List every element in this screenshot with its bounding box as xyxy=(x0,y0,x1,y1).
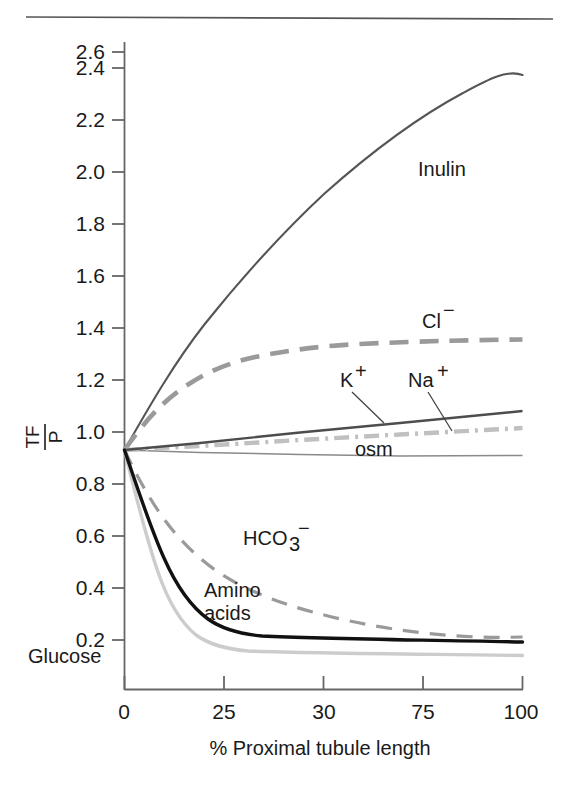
curve-label-sodium-charge: + xyxy=(437,360,449,382)
y-tick-label-1-4: 1.4 xyxy=(76,316,106,339)
curve-label-chloride-charge: − xyxy=(443,299,455,321)
curve-label-chloride-text: Cl xyxy=(422,310,441,332)
curve-glucose xyxy=(125,450,523,656)
figure-container: 0.2 0.4 0.6 0.8 1.0 1.2 1.4 1.6 1.8 2.0 … xyxy=(0,0,567,788)
curve-label-bicarbonate-text: HCO xyxy=(243,527,287,549)
x-axis-ticks xyxy=(125,676,523,690)
y-tick-label-1-8: 1.8 xyxy=(76,212,105,235)
y-tick-label-1-6: 1.6 xyxy=(76,264,105,287)
y-tick-label-2-2: 2.2 xyxy=(76,108,105,131)
curve-label-potassium-text: K xyxy=(340,369,354,391)
x-tick-label-30: 30 xyxy=(312,700,335,723)
y-tick-label-0-6: 0.6 xyxy=(76,524,105,547)
x-tick-label-25: 25 xyxy=(212,700,235,723)
curve-label-glucose: Glucose xyxy=(28,645,101,667)
y-axis-ticks xyxy=(112,52,125,640)
x-tick-label-0: 0 xyxy=(118,700,130,723)
y-axis-title-denominator: P xyxy=(45,431,66,444)
curve-label-bicarbonate-charge: − xyxy=(298,517,310,539)
leader-line-sodium xyxy=(428,392,452,431)
curve-chloride xyxy=(125,340,523,451)
curve-label-bicarbonate: HCO 3 − xyxy=(243,517,310,555)
curve-amino-acids xyxy=(125,450,523,642)
y-tick-label-0-4: 0.4 xyxy=(76,576,106,599)
curve-label-osm: osm xyxy=(355,438,393,460)
y-tick-label-1-2: 1.2 xyxy=(76,368,105,391)
y-axis-title-numerator: TF xyxy=(22,425,43,448)
curve-label-sodium: Na + xyxy=(408,360,449,391)
curve-label-amino-acids: Amino acids xyxy=(204,579,261,624)
curve-label-potassium: K + xyxy=(340,360,367,391)
y-tick-label-2-0: 2.0 xyxy=(76,160,105,183)
curve-label-sodium-text: Na xyxy=(408,369,434,391)
curve-label-amino-acids-line2: acids xyxy=(204,602,251,624)
curve-label-potassium-charge: + xyxy=(355,360,367,382)
x-tick-label-100: 100 xyxy=(503,700,538,723)
tfp-proximal-tubule-chart: 0.2 0.4 0.6 0.8 1.0 1.2 1.4 1.6 1.8 2.0 … xyxy=(0,0,567,788)
curve-label-amino-acids-line1: Amino xyxy=(204,579,261,601)
y-axis-title: TF P xyxy=(22,424,66,450)
y-tick-label-2-6: 2.6 xyxy=(76,40,105,63)
curve-label-inulin: Inulin xyxy=(418,158,466,180)
y-tick-label-1-0: 1.0 xyxy=(76,420,105,443)
curve-osm xyxy=(125,450,523,456)
leader-line-potassium xyxy=(352,392,384,423)
curve-inulin xyxy=(125,73,523,450)
top-rule xyxy=(26,17,553,19)
curve-bicarbonate xyxy=(125,450,523,637)
curve-label-chloride: Cl − xyxy=(422,299,455,332)
y-tick-label-0-8: 0.8 xyxy=(76,472,105,495)
x-tick-label-75: 75 xyxy=(411,700,434,723)
x-axis-title: % Proximal tubule length xyxy=(209,737,430,759)
